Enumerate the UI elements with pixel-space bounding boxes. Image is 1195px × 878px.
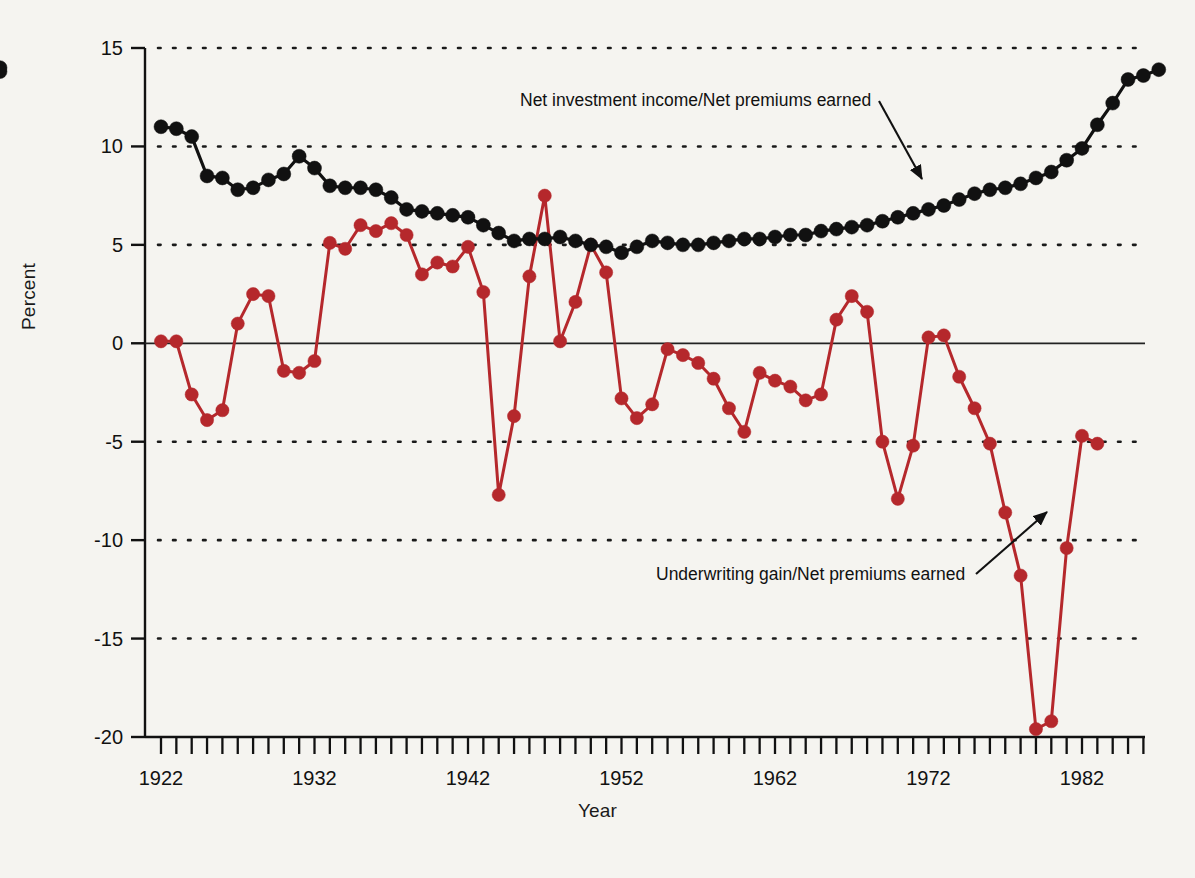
data-point (738, 425, 751, 438)
data-point (492, 488, 505, 501)
chart-figure: Percent Year 151050-5-10-15-20 192219321… (0, 0, 1195, 878)
data-point (891, 492, 904, 505)
data-point (369, 183, 383, 197)
data-point (461, 210, 475, 224)
data-point (338, 181, 352, 195)
data-point (246, 181, 260, 195)
data-point (507, 410, 520, 423)
data-point (185, 130, 199, 144)
data-point (768, 374, 781, 387)
data-point (1121, 73, 1135, 87)
data-point (200, 413, 213, 426)
data-point (676, 238, 690, 252)
data-point (431, 256, 444, 269)
x-tick-label: 1922 (139, 767, 184, 789)
data-point (215, 171, 229, 185)
data-point (875, 214, 889, 228)
data-point (615, 392, 628, 405)
data-point (1091, 437, 1104, 450)
data-point (277, 364, 290, 377)
data-point (354, 181, 368, 195)
data-point (1106, 96, 1120, 110)
data-point (477, 286, 490, 299)
y-tick-label: 15 (101, 37, 123, 59)
data-point (968, 402, 981, 415)
data-point (339, 242, 352, 255)
data-point (277, 167, 291, 181)
y-tick-label: 5 (112, 234, 123, 256)
data-point (1060, 153, 1074, 167)
data-point (768, 230, 782, 244)
data-point (600, 266, 613, 279)
data-point (707, 236, 721, 250)
series-annotation-label: Net investment income/Net premiums earne… (520, 90, 871, 110)
data-point (415, 268, 428, 281)
data-point (216, 404, 229, 417)
data-point (784, 380, 797, 393)
data-point (262, 289, 275, 302)
data-point (554, 335, 567, 348)
data-point (261, 173, 275, 187)
y-tick-label: 0 (112, 332, 123, 354)
data-point (983, 437, 996, 450)
data-point (507, 234, 521, 248)
data-point (937, 198, 951, 212)
x-tick-label: 1972 (906, 767, 951, 789)
data-point (861, 305, 874, 318)
data-point (1152, 63, 1166, 77)
data-point (522, 232, 536, 246)
data-point (384, 191, 398, 205)
data-point (676, 349, 689, 362)
data-point (968, 187, 982, 201)
data-point (799, 394, 812, 407)
data-point (200, 169, 214, 183)
y-tick-label: -20 (94, 726, 123, 748)
data-point (1060, 541, 1073, 554)
series-annotation-label: Underwriting gain/Net premiums earned (656, 564, 965, 584)
data-point (569, 295, 582, 308)
data-point (323, 236, 336, 249)
data-point (722, 402, 735, 415)
data-point (170, 335, 183, 348)
data-point (400, 228, 413, 241)
chart-plot-area: 151050-5-10-15-20 1922193219421952196219… (0, 0, 1195, 878)
data-point (446, 208, 460, 222)
annotation-arrow (879, 101, 922, 179)
series-underwriting-gain (154, 189, 1104, 736)
data-point (538, 189, 551, 202)
data-point (737, 232, 751, 246)
data-point (829, 222, 843, 236)
data-point (953, 370, 966, 383)
data-point (1029, 723, 1042, 736)
data-point (937, 329, 950, 342)
annotation-arrow (976, 512, 1047, 574)
data-point (615, 246, 629, 260)
data-point (707, 372, 720, 385)
data-point (538, 232, 552, 246)
data-point (323, 179, 337, 193)
data-point (860, 218, 874, 232)
data-point (231, 317, 244, 330)
data-point (154, 120, 168, 134)
data-point (983, 183, 997, 197)
data-point (952, 193, 966, 207)
data-point (461, 240, 474, 253)
data-point (492, 226, 506, 240)
data-point (231, 183, 245, 197)
y-tick-label: -15 (94, 628, 123, 650)
y-tick-marks (131, 48, 145, 737)
data-point (154, 335, 167, 348)
y-tick-labels: 151050-5-10-15-20 (94, 37, 123, 748)
x-tick-labels: 1922193219421952196219721982 (139, 767, 1105, 789)
y-tick-label: -10 (94, 529, 123, 551)
data-point (722, 234, 736, 248)
data-point (845, 289, 858, 302)
data-point (753, 232, 767, 246)
data-point (999, 506, 1012, 519)
data-point (446, 260, 459, 273)
data-point (922, 202, 936, 216)
x-tick-marks (161, 737, 1143, 754)
x-tick-label: 1952 (599, 767, 644, 789)
data-point (599, 240, 613, 254)
data-point (661, 236, 675, 250)
